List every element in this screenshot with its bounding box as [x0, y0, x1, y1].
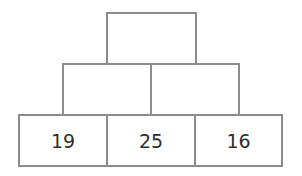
pyramid-cell-bottom-middle: 25	[106, 114, 196, 167]
pyramid-cell-bottom-right: 16	[194, 114, 283, 167]
pyramid-cell-top	[106, 12, 197, 65]
pyramid-cell-middle-right	[150, 63, 240, 116]
pyramid-cell-middle-left	[62, 63, 152, 116]
pyramid-cell-bottom-left: 19	[18, 114, 108, 167]
